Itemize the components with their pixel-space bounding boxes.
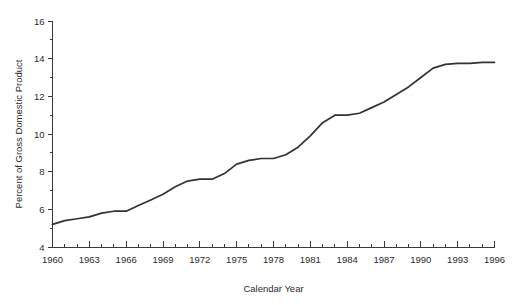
y-axis-title: Percent of Gross Domestic Product (13, 59, 24, 208)
y-tick-label: 8 (39, 166, 44, 177)
x-tick-label: 1984 (337, 254, 358, 265)
y-axis: 46810121416 (34, 16, 53, 253)
chart-figure: 46810121416 1960196319661969197219751978… (0, 0, 527, 305)
x-tick-label: 1978 (263, 254, 284, 265)
x-tick-label: 1972 (189, 254, 210, 265)
y-tick-label: 14 (34, 53, 45, 64)
x-tick-label: 1990 (410, 254, 431, 265)
line-chart: 46810121416 1960196319661969197219751978… (0, 0, 527, 305)
x-tick-label: 1981 (300, 254, 321, 265)
x-tick-label: 1963 (79, 254, 100, 265)
x-tick-label: 1975 (226, 254, 247, 265)
y-tick-label: 12 (34, 91, 45, 102)
y-tick-label: 16 (34, 16, 45, 27)
y-tick-label: 10 (34, 129, 45, 140)
x-tick-label: 1987 (373, 254, 394, 265)
x-axis: 1960196319661969197219751978198119841987… (42, 241, 505, 265)
x-tick-label: 1966 (116, 254, 137, 265)
x-axis-title: Calendar Year (243, 283, 303, 294)
x-tick-label: 1960 (42, 254, 63, 265)
y-tick-label: 6 (39, 204, 44, 215)
data-series-group (53, 62, 495, 224)
data-line-0 (53, 62, 495, 224)
y-tick-label: 4 (39, 242, 44, 253)
x-tick-label: 1993 (447, 254, 468, 265)
x-tick-label: 1969 (152, 254, 173, 265)
x-tick-label: 1996 (484, 254, 505, 265)
